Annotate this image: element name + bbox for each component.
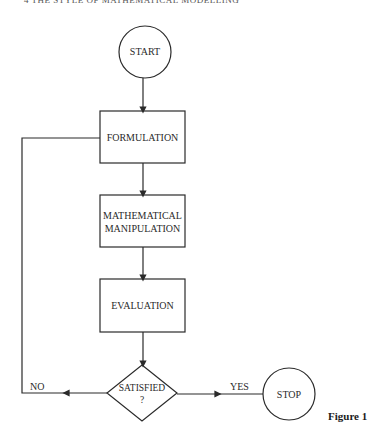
start-label: START (119, 45, 171, 58)
stop-label: STOP (263, 388, 315, 401)
manipulation-label-line2: MANIPULATION (98, 222, 187, 235)
figure-caption: Figure 1 (328, 410, 367, 422)
formulation-label: FORMULATION (100, 131, 185, 144)
no-branch-label: NO (30, 380, 44, 393)
yes-branch-label: YES (230, 380, 249, 393)
decision-label-line2: ? (107, 394, 177, 407)
flowchart-diagram (0, 0, 382, 443)
manipulation-label-line1: MATHEMATICAL (98, 209, 187, 222)
evaluation-label: EVALUATION (100, 299, 185, 312)
feedback-loop-line (22, 138, 100, 393)
